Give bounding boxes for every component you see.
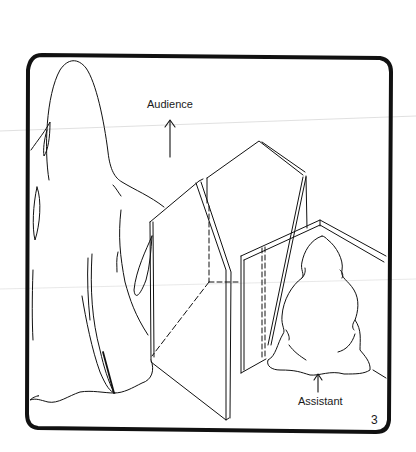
audience-label: Audience bbox=[147, 99, 193, 110]
assistant-arrow bbox=[314, 374, 322, 392]
audience-arrow bbox=[165, 120, 175, 157]
seated-figure bbox=[268, 236, 370, 375]
illustration-canvas bbox=[0, 0, 416, 452]
scan-line-top bbox=[0, 116, 416, 131]
small-folding-screen bbox=[241, 220, 386, 378]
page-number: 3 bbox=[371, 414, 378, 426]
large-folding-screen bbox=[150, 141, 307, 420]
sheet-figure bbox=[30, 61, 164, 403]
assistant-label: Assistant bbox=[298, 396, 343, 407]
